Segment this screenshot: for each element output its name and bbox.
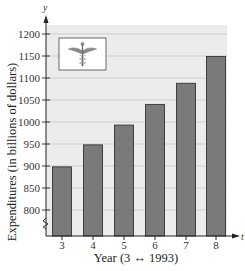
y-tick-label: 900 (24, 160, 41, 172)
y-tick-label: 1200 (18, 28, 41, 40)
bar (207, 56, 226, 236)
y-tick-label: 1100 (18, 72, 40, 84)
y-tick-label: 800 (24, 204, 41, 216)
bar (84, 145, 103, 236)
x-tick-label: 7 (183, 239, 189, 251)
y-tick-label: 1050 (18, 94, 41, 106)
bar (53, 167, 72, 236)
x-ticks: 345678 (59, 236, 219, 251)
x-axis-variable: t (241, 231, 244, 242)
x-tick-label: 6 (152, 239, 158, 251)
x-tick-label: 8 (213, 239, 219, 251)
x-tick-label: 4 (90, 239, 96, 251)
y-axis-title: Expenditures (in billions of dollars) (5, 63, 19, 241)
x-axis-title: Year (3 ↔ 1993) (94, 251, 179, 265)
y-axis-variable: y (42, 2, 48, 13)
bar (146, 104, 165, 236)
y-tick-label: 1000 (18, 116, 41, 128)
y-ticks: 80085090095010001050110011501200 (18, 28, 50, 216)
y-tick-label: 850 (24, 182, 41, 194)
x-tick-label: 5 (121, 239, 127, 251)
bar (115, 125, 134, 236)
caduceus-inset (59, 38, 106, 70)
bar-chart: 80085090095010001050110011501200 345678 … (0, 0, 245, 271)
y-tick-label: 950 (24, 138, 41, 150)
bar (177, 83, 196, 236)
x-tick-label: 3 (59, 239, 65, 251)
y-tick-label: 1150 (18, 50, 40, 62)
